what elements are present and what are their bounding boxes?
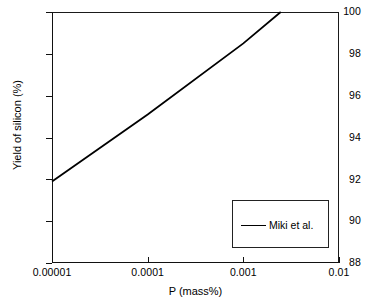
legend-item: Miki et al.	[233, 218, 330, 232]
x-tick-mark	[52, 257, 53, 263]
legend-item-label: Miki et al.	[269, 219, 313, 231]
y-tick-mark	[46, 179, 52, 180]
y-tick-mark	[46, 12, 52, 13]
y-tick-mark	[46, 54, 52, 55]
x-tick-label: 0.00001	[7, 266, 97, 278]
y-tick-mark	[46, 96, 52, 97]
y-tick-label: 94	[317, 132, 361, 143]
y-axis-label: Yield of silicon (%)	[11, 55, 23, 195]
legend-line-swatch-icon	[241, 225, 266, 226]
y-tick-label: 96	[317, 90, 361, 101]
y-tick-mark	[46, 263, 52, 264]
series-line-miki-et-al	[52, 12, 281, 181]
x-tick-mark	[148, 257, 149, 263]
y-tick-mark	[46, 221, 52, 222]
y-tick-mark	[46, 138, 52, 139]
y-tick-label: 92	[317, 174, 361, 185]
y-tick-label: 100	[317, 6, 361, 17]
x-tick-mark	[243, 257, 244, 263]
x-tick-label: 0.01	[294, 266, 366, 278]
x-tick-mark	[339, 257, 340, 263]
x-axis-label: P (mass%)	[52, 285, 339, 297]
x-tick-label: 0.0001	[103, 266, 193, 278]
y-tick-label: 98	[317, 48, 361, 59]
legend-box: Miki et al.	[232, 200, 329, 248]
x-tick-label: 0.001	[198, 266, 288, 278]
